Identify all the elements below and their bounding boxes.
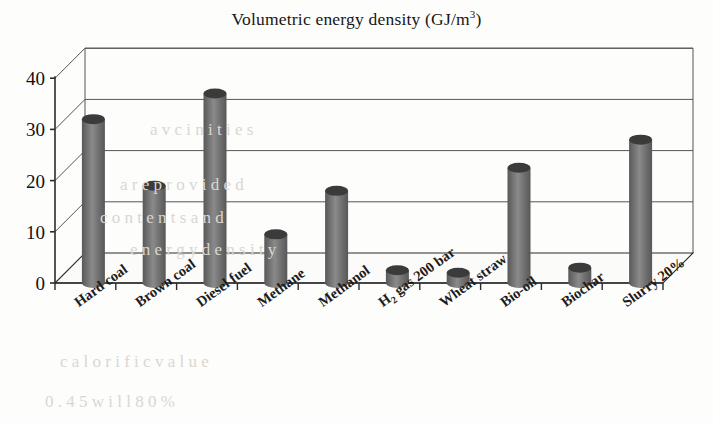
y-tick-label: 0: [36, 273, 46, 294]
chart-plot-area: 010203040: [0, 0, 713, 424]
bar-diesel-fuel: [204, 89, 227, 288]
y-axis-tick-labels: 010203040: [26, 68, 45, 294]
y-tick-label: 30: [26, 119, 45, 140]
y-tick-label: 20: [26, 171, 45, 192]
bar-brown-coal: [143, 181, 166, 288]
y-tick-label: 10: [26, 222, 45, 243]
bar-slurry-20: [629, 135, 652, 288]
chart-container: Volumetric energy density (GJ/m3) 010203…: [0, 0, 713, 424]
bar-bio-oil: [508, 163, 531, 288]
y-tick-label: 40: [26, 68, 45, 89]
bar-hard-coal: [82, 114, 105, 288]
bar-methanol: [325, 186, 348, 288]
